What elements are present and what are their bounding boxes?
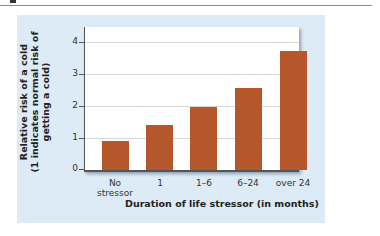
x-tick-label-no-stressor: No stressor: [93, 178, 137, 198]
y-tick-label: 1: [64, 132, 78, 142]
bar-no-stressor: [102, 141, 129, 170]
bar-over-24-months: [280, 51, 307, 170]
y-axis-title: Relative risk of a cold (1 indicates nor…: [18, 22, 51, 182]
x-tick-label: 6–24: [230, 178, 266, 188]
y-tick: [79, 42, 84, 43]
header-mark: [10, 0, 16, 3]
x-tick-label: 1: [145, 178, 175, 188]
bar-6-24-months: [235, 88, 262, 170]
y-axis-title-line-1: Relative risk of a cold: [18, 22, 29, 182]
y-tick-label: 2: [64, 100, 78, 110]
bar-1-month: [146, 125, 173, 170]
y-tick-label: 4: [64, 36, 78, 46]
bar-1-6-months: [190, 107, 217, 170]
gridline: [85, 74, 299, 75]
x-axis-title: Duration of life stressor (in months): [125, 198, 319, 209]
x-tick-label-line: stressor: [93, 188, 137, 198]
divider: [0, 5, 372, 6]
plot-area: [84, 27, 299, 172]
gridline: [85, 42, 299, 43]
page-header-rule: [0, 0, 380, 5]
y-tick: [79, 138, 84, 139]
y-tick: [79, 169, 84, 170]
y-tick-label: 3: [64, 68, 78, 78]
x-tick-label: 1–6: [186, 178, 222, 188]
y-tick: [79, 106, 84, 107]
y-tick: [79, 74, 84, 75]
x-tick-label: over 24: [270, 178, 316, 188]
y-axis-title-line-3: getting a cold): [40, 22, 51, 182]
y-tick-label: 0: [64, 163, 78, 173]
x-tick-label-line: No: [93, 178, 137, 188]
y-axis-title-line-2: (1 indicates normal risk of: [29, 22, 40, 182]
